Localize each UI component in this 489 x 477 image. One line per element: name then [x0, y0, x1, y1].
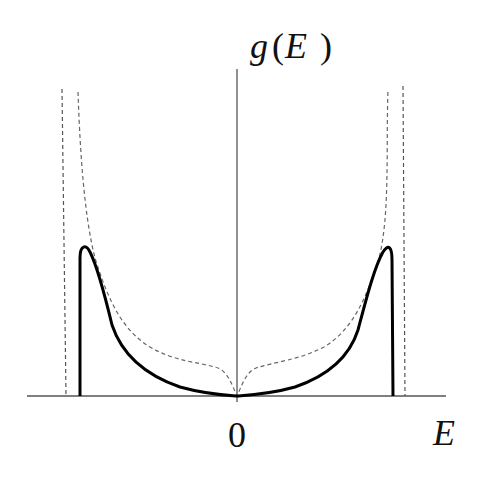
dos-chart: g ( E ) 0 E — [0, 0, 489, 477]
y-axis-label-g: g — [250, 26, 268, 66]
origin-label: 0 — [228, 415, 246, 455]
left-edge-asymptote — [62, 89, 66, 396]
x-axis-label: E — [432, 413, 455, 453]
right-edge-asymptote — [403, 86, 405, 396]
y-axis-label-close-paren: ) — [320, 26, 332, 66]
y-axis-label-open-paren: ( — [272, 26, 284, 66]
y-axis-label-E: E — [284, 26, 307, 66]
